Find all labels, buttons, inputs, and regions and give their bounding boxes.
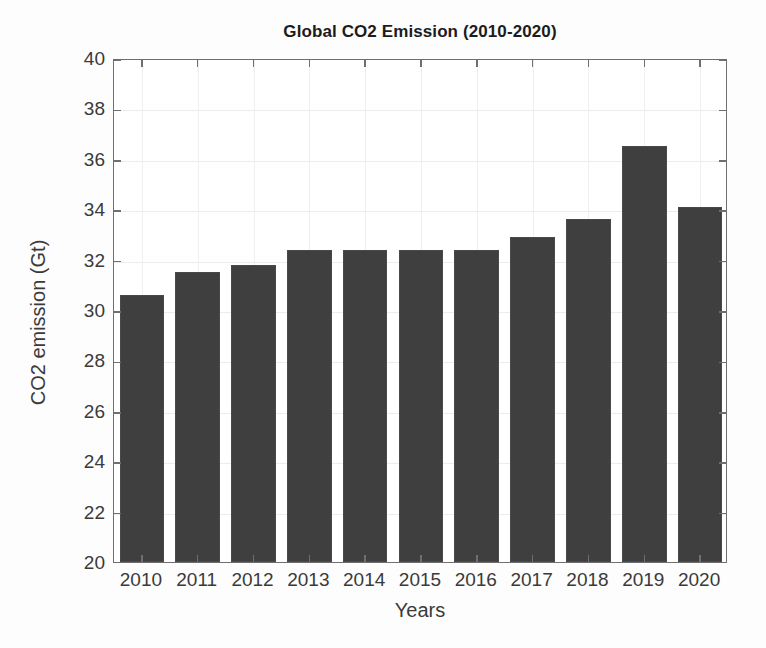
y-axis-tick — [114, 110, 121, 112]
y-axis-tick-right — [719, 160, 726, 162]
y-axis-tick — [114, 311, 121, 313]
bar-2014 — [343, 250, 388, 562]
x-axis-tick-top — [141, 60, 143, 67]
bar-2019 — [622, 146, 667, 562]
y-axis-tick-label: 22 — [45, 502, 105, 524]
chart-title: Global CO2 Emission (2010-2020) — [113, 22, 727, 42]
x-axis-tick — [309, 555, 311, 562]
y-axis-tick-label: 34 — [45, 199, 105, 221]
y-axis-tick-label: 26 — [45, 401, 105, 423]
x-axis-tick-top — [588, 60, 590, 67]
y-axis-tick — [114, 160, 121, 162]
y-axis-tick-right — [719, 261, 726, 263]
x-axis-tick — [420, 555, 422, 562]
y-axis-tick-right — [719, 59, 726, 61]
x-axis-tick — [476, 555, 478, 562]
x-axis-tick-top — [699, 60, 701, 67]
y-axis-tick-right — [719, 513, 726, 515]
x-axis-tick-top — [364, 60, 366, 67]
x-axis-title: Years — [113, 599, 727, 622]
x-axis-tick-label: 2020 — [659, 569, 739, 591]
y-axis-tick-right — [719, 110, 726, 112]
x-axis-tick — [699, 555, 701, 562]
y-axis-tick-label: 20 — [45, 552, 105, 574]
y-axis-title: CO2 emission (Gt) — [27, 193, 50, 453]
y-axis-tick-right — [719, 362, 726, 364]
y-axis-tick-right — [719, 412, 726, 414]
x-axis-tick — [532, 555, 534, 562]
y-axis-tick — [114, 362, 121, 364]
y-axis-tick-right — [719, 210, 726, 212]
x-axis-tick — [253, 555, 255, 562]
y-axis-tick — [114, 210, 121, 212]
y-axis-tick — [114, 462, 121, 464]
x-axis-tick-top — [253, 60, 255, 67]
y-axis-tick — [114, 59, 121, 61]
y-axis-tick — [114, 261, 121, 263]
x-axis-tick-top — [476, 60, 478, 67]
x-axis-tick-top — [532, 60, 534, 67]
bar-2020 — [678, 207, 723, 562]
y-axis-tick-right — [719, 311, 726, 313]
bar-series — [114, 60, 726, 562]
bar-2013 — [287, 250, 332, 562]
x-axis-tick — [141, 555, 143, 562]
y-axis-tick — [114, 412, 121, 414]
bar-2017 — [510, 237, 555, 562]
x-axis-tick-top — [420, 60, 422, 67]
y-axis-tick-label: 24 — [45, 451, 105, 473]
y-axis-tick-labels: 2022242628303234363840 — [43, 59, 105, 563]
figure-canvas: Global CO2 Emission (2010-2020) 20222426… — [0, 0, 766, 648]
x-axis-tick-top — [309, 60, 311, 67]
y-axis-tick-label: 32 — [45, 250, 105, 272]
bar-2012 — [231, 265, 276, 562]
bar-2011 — [175, 272, 220, 562]
y-axis-tick-label: 36 — [45, 149, 105, 171]
y-axis-tick — [114, 513, 121, 515]
y-axis-tick-right — [719, 462, 726, 464]
y-axis-tick-label: 28 — [45, 350, 105, 372]
x-axis-tick — [364, 555, 366, 562]
y-axis-tick-label: 40 — [45, 48, 105, 70]
bar-2018 — [566, 219, 611, 562]
x-axis-tick-top — [644, 60, 646, 67]
x-axis-tick — [197, 555, 199, 562]
x-axis-tick-labels: 2010201120122013201420152016201720182019… — [113, 569, 727, 595]
x-axis-tick-top — [197, 60, 199, 67]
bar-2016 — [454, 250, 499, 562]
x-axis-tick — [588, 555, 590, 562]
plot-area — [113, 59, 727, 563]
y-axis-tick-label: 38 — [45, 98, 105, 120]
y-axis-tick-label: 30 — [45, 300, 105, 322]
bar-2015 — [399, 250, 444, 562]
bar-2010 — [120, 295, 165, 562]
x-axis-tick — [644, 555, 646, 562]
